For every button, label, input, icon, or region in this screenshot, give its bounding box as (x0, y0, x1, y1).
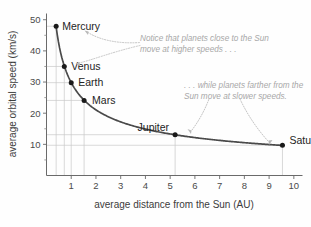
chart-svg: 1020304050 12345678910 MercuryVenusEarth… (0, 0, 311, 227)
leader-line-mercury (88, 33, 140, 43)
x-tick-label-8: 8 (242, 180, 247, 191)
x-tick-label-2: 2 (93, 180, 98, 191)
orbital-speed-chart-figure: 1020304050 12345678910 MercuryVenusEarth… (0, 0, 311, 227)
point-label-earth: Earth (78, 76, 103, 88)
data-point-jupiter (173, 132, 178, 137)
y-tick-label-10: 10 (30, 139, 41, 150)
point-label-mars: Mars (92, 94, 115, 106)
y-tick-label-20: 20 (30, 108, 41, 119)
leader-arrow-jupiter (188, 129, 192, 134)
x-axis-ticks-group (71, 176, 294, 180)
point-label-jupiter: Jupiter (138, 121, 170, 133)
annotation-slow-speed-line1: . . . while planets farther from the (184, 81, 304, 90)
point-label-venus: Venus (71, 60, 100, 72)
x-tick-label-9: 9 (266, 180, 271, 191)
x-tick-label-1: 1 (69, 180, 74, 191)
data-point-earth (69, 80, 74, 85)
x-tick-label-3: 3 (118, 180, 123, 191)
leader-line-jupiter (192, 99, 209, 130)
leader-line-saturn (240, 99, 268, 141)
annotation-high-speed-line1: Notice that planets close to the Sun (140, 34, 269, 43)
data-point-venus (62, 64, 67, 69)
x-tick-label-6: 6 (192, 180, 197, 191)
x-axis-label: average distance from the Sun (AU) (94, 199, 254, 210)
point-label-saturn: Saturn (289, 134, 311, 146)
x-tick-label-4: 4 (143, 180, 148, 191)
data-point-saturn (280, 143, 285, 148)
y-tick-label-50: 50 (30, 14, 41, 25)
annotation-slow-speed-line2: Sun move at slower speeds. (184, 92, 287, 101)
x-tick-label-7: 7 (217, 180, 222, 191)
x-tick-label-5: 5 (168, 180, 173, 191)
y-axis-tick-labels-group: 1020304050 (30, 14, 41, 150)
x-tick-label-10: 10 (289, 180, 300, 191)
y-tick-label-30: 30 (30, 76, 41, 87)
point-label-mercury: Mercury (62, 20, 101, 32)
x-axis-tick-labels-group: 12345678910 (69, 180, 300, 191)
annotation-slow-speed: . . . while planets farther from the Sun… (184, 81, 304, 101)
data-point-mercury (54, 24, 59, 29)
annotation-high-speed-line2: move at higher speeds . . . (140, 45, 236, 54)
data-point-mars (82, 98, 87, 103)
y-axis-ticks-group (43, 20, 47, 160)
y-tick-label-40: 40 (30, 45, 41, 56)
annotation-high-speed: Notice that planets close to the Sun mov… (140, 34, 269, 54)
y-axis-label: average orbital speed (km/s) (7, 31, 18, 158)
